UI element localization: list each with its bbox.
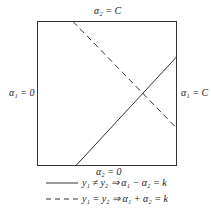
top-label: α₂ = C: [94, 5, 121, 16]
bottom-label: α₂ = 0: [96, 166, 121, 177]
feasible-box: [38, 22, 177, 166]
left-label: α₁ = 0: [9, 87, 34, 98]
legend-solid-text: y₁ ≠ y₂ ⇒ α₁ − α₂ = k: [82, 177, 167, 188]
dashed-constraint-line: [73, 22, 177, 129]
legend-dashed-text: y₁ = y₂ ⇒ α₁ + α₂ = k: [82, 193, 168, 204]
solid-constraint-line: [76, 57, 177, 166]
right-label: α₁ = C: [181, 87, 208, 98]
